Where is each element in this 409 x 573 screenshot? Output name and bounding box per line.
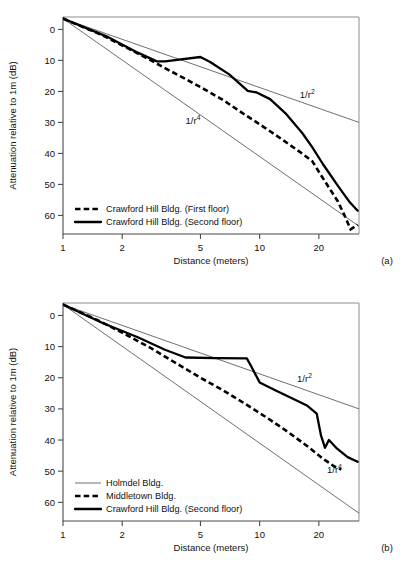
chart-legend: Holmdel Bldg.Middletown Bldg.Crawford Hi… — [75, 478, 242, 514]
data-series-line — [63, 305, 359, 409]
y-axis-title: Attenuation relative to 1m (dB) — [7, 61, 18, 189]
data-series-line — [63, 19, 358, 211]
legend-item: Crawford Hill Bldg. (Second floor) — [75, 504, 242, 514]
x-axis-title: Distance (meters) — [174, 542, 249, 553]
figure-panel-b: 01020304050601251020Distance (meters)Att… — [0, 286, 409, 573]
x-tick-label: 20 — [314, 242, 325, 253]
x-axis-title: Distance (meters) — [174, 255, 249, 266]
legend-item: Holmdel Bldg. — [75, 478, 163, 488]
panel-label: (a) — [381, 255, 393, 266]
legend-label: Holmdel Bldg. — [106, 478, 163, 488]
panel-label: (b) — [381, 542, 393, 553]
chart-canvas: 01020304050601251020Distance (meters)Att… — [0, 0, 409, 286]
power-law-annotation: 1/r2 — [297, 372, 312, 384]
data-series-line — [63, 19, 358, 230]
y-tick-label: 30 — [44, 403, 55, 414]
legend-item: Middletown Bldg. — [75, 491, 176, 501]
x-tick-label: 10 — [254, 529, 265, 540]
power-law-annotation: 1/r4 — [186, 114, 201, 126]
y-tick-label: 60 — [44, 497, 55, 508]
y-tick-label: 0 — [50, 310, 55, 321]
y-tick-label: 50 — [44, 179, 55, 190]
legend-item: Crawford Hill Bldg. (First floor) — [75, 204, 229, 214]
power-law-annotation: 1/r4 — [327, 463, 342, 475]
y-tick-label: 40 — [44, 435, 55, 446]
legend-label: Crawford Hill Bldg. (First floor) — [106, 204, 229, 214]
x-tick-label: 20 — [314, 529, 325, 540]
chart-canvas: 01020304050601251020Distance (meters)Att… — [0, 286, 409, 573]
x-tick-label: 1 — [60, 529, 65, 540]
chart-legend: Crawford Hill Bldg. (First floor)Crawfor… — [75, 204, 242, 227]
x-tick-label: 1 — [60, 242, 65, 253]
x-tick-label: 2 — [120, 529, 125, 540]
y-tick-label: 10 — [44, 341, 55, 352]
legend-label: Crawford Hill Bldg. (Second floor) — [106, 217, 242, 227]
x-tick-label: 5 — [198, 529, 203, 540]
y-tick-label: 40 — [44, 148, 55, 159]
y-tick-label: 30 — [44, 117, 55, 128]
y-tick-label: 20 — [44, 86, 55, 97]
y-tick-label: 60 — [44, 210, 55, 221]
legend-label: Middletown Bldg. — [106, 491, 176, 501]
figure-panel-a: 01020304050601251020Distance (meters)Att… — [0, 0, 409, 286]
y-tick-label: 20 — [44, 372, 55, 383]
y-tick-label: 50 — [44, 466, 55, 477]
x-tick-label: 2 — [120, 242, 125, 253]
data-series-line — [63, 305, 341, 470]
legend-item: Crawford Hill Bldg. (Second floor) — [75, 217, 242, 227]
data-series-line — [63, 19, 359, 227]
y-axis-title: Attenuation relative to 1m (dB) — [7, 348, 18, 476]
y-tick-label: 0 — [50, 24, 55, 35]
x-tick-label: 5 — [198, 242, 203, 253]
data-series-line — [63, 19, 359, 123]
legend-label: Crawford Hill Bldg. (Second floor) — [106, 504, 242, 514]
power-law-annotation: 1/r2 — [300, 88, 315, 100]
y-tick-label: 10 — [44, 55, 55, 66]
x-tick-label: 10 — [254, 242, 265, 253]
